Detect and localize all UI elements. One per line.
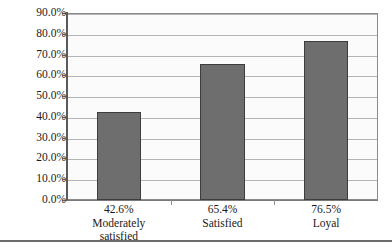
y-axis-tick-label: 70.0%	[4, 49, 66, 61]
y-axis-tick-label: 30.0%	[4, 132, 66, 144]
y-axis-tick-mark	[62, 13, 66, 14]
y-axis-tick-label: 50.0%	[4, 90, 66, 102]
y-axis-tick-label: 60.0%	[4, 70, 66, 82]
bar	[304, 41, 348, 200]
bar	[200, 64, 244, 200]
y-axis-tick-mark	[62, 158, 66, 159]
y-axis-tick-labels: 0.0%10.0%20.0%30.0%40.0%50.0%60.0%70.0%8…	[0, 0, 66, 248]
category-value-label: 76.5%	[274, 203, 378, 217]
category-label: 42.6%Moderatelysatisfied	[67, 203, 171, 244]
y-axis-tick-label: 90.0%	[4, 7, 66, 19]
bar-slot	[97, 13, 141, 200]
bar	[97, 112, 141, 201]
bottom-divider-rule	[0, 240, 392, 242]
y-axis-tick-mark	[62, 75, 66, 76]
category-label: 65.4%Satisfied	[171, 203, 275, 230]
y-axis-tick-mark	[62, 200, 66, 201]
category-name-label: Moderately	[67, 217, 171, 231]
y-axis-tick-label: 0.0%	[4, 194, 66, 206]
y-axis-tick-mark	[62, 138, 66, 139]
y-axis-tick-label: 40.0%	[4, 111, 66, 123]
bar-slot	[200, 13, 244, 200]
category-name-label: Loyal	[274, 217, 378, 231]
bars-layer	[67, 13, 378, 200]
y-axis-tick-mark	[62, 96, 66, 97]
y-axis-tick-label: 80.0%	[4, 28, 66, 40]
y-axis-tick-label: 10.0%	[4, 173, 66, 185]
category-axis-line	[67, 200, 378, 201]
category-value-label: 42.6%	[67, 203, 171, 217]
y-axis-tick-mark	[62, 179, 66, 180]
y-axis-tick-mark	[62, 34, 66, 35]
bar-slot	[304, 13, 348, 200]
category-label: 76.5%Loyal	[274, 203, 378, 230]
y-axis-tick-mark	[62, 55, 66, 56]
category-value-label: 65.4%	[171, 203, 275, 217]
category-name-label: Satisfied	[171, 217, 275, 231]
bar-chart-figure: 0.0%10.0%20.0%30.0%40.0%50.0%60.0%70.0%8…	[0, 0, 392, 248]
y-axis-tick-label: 20.0%	[4, 153, 66, 165]
y-axis-tick-mark	[62, 117, 66, 118]
